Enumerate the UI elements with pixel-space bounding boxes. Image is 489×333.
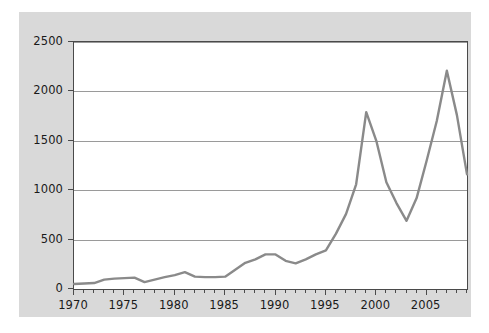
x-tick-mark-major (73, 289, 74, 295)
x-tick-mark-minor (264, 289, 265, 293)
x-axis-ticks: 19701975198019851990199520002005 (19, 12, 471, 317)
x-tick-mark-minor (355, 289, 356, 293)
x-tick-mark-minor (103, 289, 104, 293)
x-tick-mark-minor (395, 289, 396, 293)
x-tick-mark-minor (406, 289, 407, 293)
x-tick-mark-major (375, 289, 376, 295)
x-tick-label: 1995 (310, 298, 340, 312)
x-tick-mark-minor (204, 289, 205, 293)
x-tick-label: 1970 (58, 298, 88, 312)
x-tick-mark-minor (335, 289, 336, 293)
chart-figure: Billions of Dollars 05001000150020002500… (19, 12, 471, 317)
x-tick-label: 1975 (109, 298, 139, 312)
x-tick-mark-minor (446, 289, 447, 293)
x-tick-mark-minor (184, 289, 185, 293)
x-tick-mark-major (224, 289, 225, 295)
x-tick-mark-minor (113, 289, 114, 293)
x-tick-mark-minor (295, 289, 296, 293)
x-tick-mark-minor (436, 289, 437, 293)
x-tick-mark-minor (244, 289, 245, 293)
x-tick-mark-major (174, 289, 175, 295)
x-tick-mark-major (325, 289, 326, 295)
x-tick-label: 1990 (260, 298, 290, 312)
x-tick-mark-minor (194, 289, 195, 293)
x-tick-mark-minor (234, 289, 235, 293)
x-tick-mark-minor (133, 289, 134, 293)
x-tick-mark-minor (345, 289, 346, 293)
x-tick-mark-minor (254, 289, 255, 293)
x-tick-mark-minor (305, 289, 306, 293)
x-tick-label: 2000 (360, 298, 390, 312)
x-tick-mark-major (275, 289, 276, 295)
x-tick-mark-minor (83, 289, 84, 293)
x-tick-mark-major (123, 289, 124, 295)
x-tick-mark-minor (93, 289, 94, 293)
x-tick-mark-minor (214, 289, 215, 293)
x-tick-mark-minor (466, 289, 467, 293)
x-tick-mark-minor (285, 289, 286, 293)
x-tick-label: 2005 (411, 298, 441, 312)
x-tick-mark-minor (154, 289, 155, 293)
x-tick-mark-minor (164, 289, 165, 293)
x-tick-mark-minor (144, 289, 145, 293)
x-tick-mark-major (426, 289, 427, 295)
x-tick-mark-minor (385, 289, 386, 293)
x-tick-mark-minor (456, 289, 457, 293)
x-tick-mark-minor (315, 289, 316, 293)
x-tick-mark-minor (416, 289, 417, 293)
x-tick-label: 1985 (209, 298, 239, 312)
x-tick-mark-minor (365, 289, 366, 293)
x-tick-label: 1980 (159, 298, 189, 312)
